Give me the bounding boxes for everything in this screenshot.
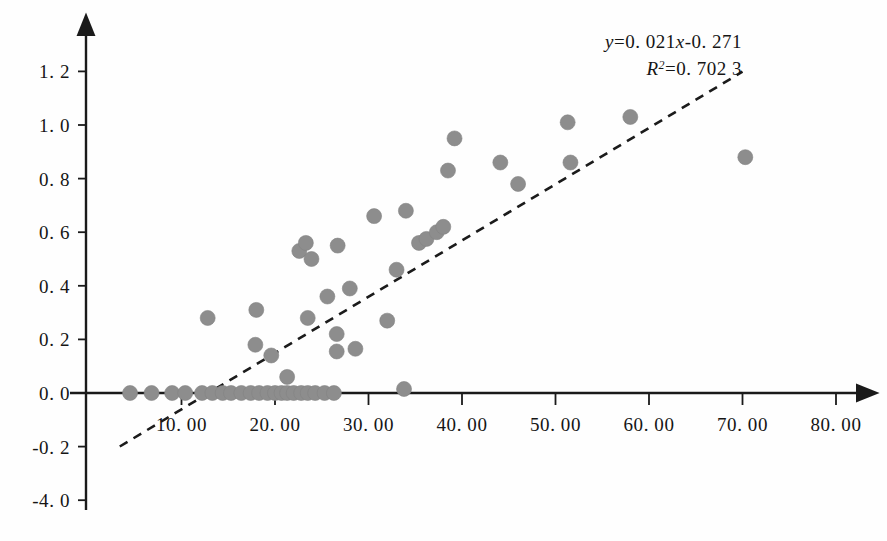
data-point — [178, 386, 193, 401]
data-point — [436, 219, 451, 234]
x-tick-label: 80. 00 — [810, 414, 861, 435]
scatter-chart-figure: 1. 21. 00. 80. 60. 40. 20. 0-0. 2-4. 0 1… — [0, 0, 887, 541]
data-point — [380, 313, 395, 328]
axes-group — [70, 34, 858, 510]
y-tick-label: -4. 0 — [32, 490, 70, 511]
data-point — [397, 381, 412, 396]
y-tick-label: 1. 0 — [39, 115, 70, 136]
data-point — [165, 386, 180, 401]
data-point — [348, 341, 363, 356]
r-squared-label: R2=0. 702 3 — [645, 58, 742, 79]
data-point — [304, 252, 319, 267]
y-tick-label: 0. 6 — [39, 222, 70, 243]
data-point — [280, 369, 295, 384]
y-tick-label: 0. 8 — [39, 169, 70, 190]
y-tick-label: -0. 2 — [32, 437, 70, 458]
plot-svg: 1. 21. 00. 80. 60. 40. 20. 0-0. 2-4. 0 1… — [0, 0, 887, 541]
x-tick-label: 20. 00 — [249, 414, 300, 435]
data-point — [563, 155, 578, 170]
x-tick-label: 50. 00 — [530, 414, 581, 435]
data-point — [248, 337, 263, 352]
y-tick-label: 0. 4 — [39, 276, 70, 297]
regression-equation: y=0. 021x-0. 271 — [603, 31, 742, 52]
x-tick-label: 40. 00 — [436, 414, 487, 435]
data-point — [249, 302, 264, 317]
data-point — [200, 310, 215, 325]
y-axis-ticks: 1. 21. 00. 80. 60. 40. 20. 0-0. 2-4. 0 — [32, 61, 86, 511]
data-point — [300, 310, 315, 325]
data-point — [144, 386, 159, 401]
y-tick-label: 0. 0 — [39, 383, 70, 404]
x-tick-label: 30. 00 — [343, 414, 394, 435]
data-point — [298, 235, 313, 250]
data-point — [320, 289, 335, 304]
data-point — [511, 176, 526, 191]
data-point — [493, 155, 508, 170]
data-point — [326, 386, 341, 401]
data-point — [342, 281, 357, 296]
data-point — [367, 209, 382, 224]
data-point — [398, 203, 413, 218]
data-point — [329, 344, 344, 359]
data-point — [623, 109, 638, 124]
data-point — [738, 150, 753, 165]
data-point — [264, 348, 279, 363]
data-point — [123, 386, 138, 401]
y-tick-label: 1. 2 — [39, 61, 70, 82]
x-tick-label: 60. 00 — [623, 414, 674, 435]
y-tick-label: 0. 2 — [39, 329, 70, 350]
x-tick-label: 70. 00 — [717, 414, 768, 435]
data-point — [389, 262, 404, 277]
data-point — [447, 131, 462, 146]
x-tick-label: 10. 00 — [156, 414, 207, 435]
data-point — [330, 238, 345, 253]
data-point — [440, 163, 455, 178]
data-point — [329, 327, 344, 342]
data-point — [560, 115, 575, 130]
